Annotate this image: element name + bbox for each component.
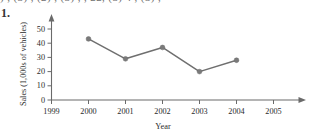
data-series-points bbox=[86, 37, 239, 74]
y-axis-title: Sales (1,000s of vehicles) bbox=[19, 22, 28, 106]
y-tick-label: 40 bbox=[37, 39, 45, 48]
y-tick-label: 20 bbox=[37, 67, 45, 76]
figure-page: ) , (3) , (2) , (3) , , 22, (3) 4 , (3) … bbox=[0, 0, 310, 134]
x-tick-label: 2003 bbox=[191, 107, 207, 116]
x-tick-label: 2000 bbox=[80, 107, 96, 116]
data-point bbox=[86, 37, 91, 42]
data-point bbox=[234, 58, 239, 63]
x-axis bbox=[52, 97, 307, 103]
y-tick-label: 10 bbox=[37, 81, 45, 90]
x-axis-arrow-icon bbox=[299, 97, 307, 103]
x-tick-label: 2005 bbox=[265, 107, 281, 116]
data-series-line bbox=[89, 39, 237, 72]
cutoff-text-above: ) , (3) , (2) , (3) , , 22, (3) 4 , (3) … bbox=[0, 0, 310, 4]
x-axis-ticks bbox=[52, 100, 274, 104]
data-point bbox=[197, 69, 202, 74]
x-axis-tick-labels: 1999 2000 2001 2002 2003 2004 2005 bbox=[43, 107, 281, 116]
y-tick-label: 30 bbox=[37, 53, 45, 62]
y-tick-label: 50 bbox=[37, 25, 45, 34]
data-point bbox=[160, 45, 165, 50]
y-axis-ticks bbox=[48, 29, 52, 100]
line-chart: 0 10 20 30 40 50 Sales (1,000s of vehicl… bbox=[0, 8, 310, 134]
data-point bbox=[123, 56, 128, 61]
y-tick-label: 0 bbox=[41, 96, 45, 105]
x-axis-title: Year bbox=[155, 122, 171, 131]
y-axis-arrow-icon bbox=[49, 14, 55, 22]
x-tick-label: 2001 bbox=[117, 107, 133, 116]
x-tick-label: 1999 bbox=[43, 107, 59, 116]
x-tick-label: 2002 bbox=[154, 107, 170, 116]
chart-svg: 0 10 20 30 40 50 Sales (1,000s of vehicl… bbox=[0, 8, 310, 134]
x-tick-label: 2004 bbox=[228, 107, 244, 116]
y-axis-tick-labels: 0 10 20 30 40 50 bbox=[37, 25, 45, 105]
